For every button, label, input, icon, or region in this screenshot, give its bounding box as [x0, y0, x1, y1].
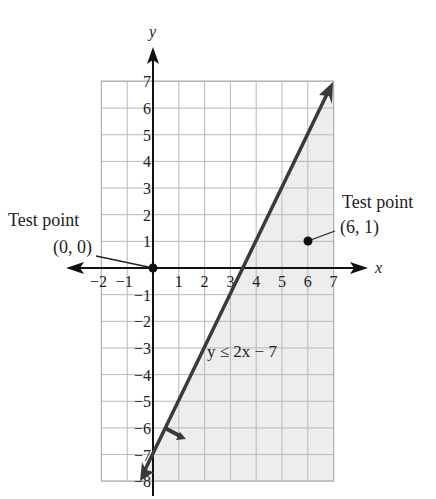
y-tick-label: 2 [143, 207, 151, 224]
inequality-graph: x y −2−11234567 7654321−1−2−3−4−5−6−7−8 … [0, 0, 436, 499]
y-tick-label: −5 [134, 393, 151, 410]
y-tick-label: −6 [134, 420, 151, 437]
y-tick-label: 7 [143, 73, 151, 90]
x-tick-label: 2 [201, 273, 209, 290]
y-tick-labels: 7654321−1−2−3−4−5−6−7−8 [134, 73, 151, 490]
y-tick-label: 3 [143, 180, 151, 197]
y-tick-label: −3 [134, 340, 151, 357]
y-tick-label: 5 [143, 127, 151, 144]
y-tick-label: 6 [143, 100, 151, 117]
y-axis-label: y [147, 23, 157, 41]
test-point-origin-label-line2: (0, 0) [53, 237, 92, 258]
y-tick-label: −2 [134, 313, 151, 330]
x-tick-label: 5 [278, 273, 286, 290]
y-tick-label: 1 [143, 233, 151, 250]
x-tick-label: −2 [90, 273, 107, 290]
test-point-6-1-label-line1: Test point [342, 192, 413, 212]
inequality-label: y ≤ 2x − 7 [207, 342, 277, 361]
y-tick-label: 4 [143, 153, 151, 170]
x-axis-label: x [374, 259, 382, 276]
x-tick-label: 6 [304, 273, 312, 290]
y-tick-label: −4 [134, 367, 151, 384]
x-tick-label: 4 [252, 273, 260, 290]
x-tick-label: 1 [175, 273, 183, 290]
x-tick-label: −1 [116, 273, 133, 290]
y-tick-label: −1 [134, 287, 151, 304]
x-tick-label: 7 [330, 273, 338, 290]
test-point-6-1-label-line2: (6, 1) [340, 217, 379, 238]
test-point-origin-label-line1: Test point [8, 210, 79, 230]
